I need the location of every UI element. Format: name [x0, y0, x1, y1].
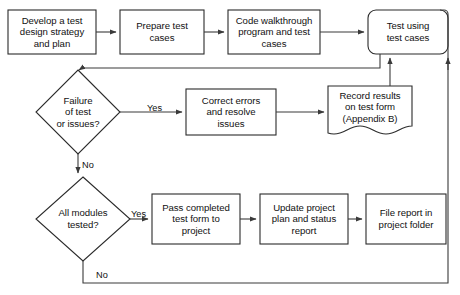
- node-record-results-document[interactable]: [328, 86, 412, 134]
- node-prepare-test-cases[interactable]: [120, 10, 204, 54]
- edge-test-using-to-failure-decision: [79, 54, 380, 70]
- node-pass-completed-test-form[interactable]: [152, 194, 240, 244]
- node-develop-test-design[interactable]: [8, 10, 96, 54]
- node-test-using-test-cases[interactable]: [368, 10, 448, 54]
- node-update-project-plan[interactable]: [260, 194, 348, 244]
- node-file-report[interactable]: [366, 194, 446, 244]
- node-all-modules-tested-decision[interactable]: [36, 177, 130, 261]
- flowchart-canvas: Develop a test design strategy and plan …: [0, 0, 460, 295]
- node-failure-of-test-decision[interactable]: [36, 70, 120, 154]
- node-correct-errors[interactable]: [186, 89, 276, 135]
- flowchart-svg: [0, 0, 460, 295]
- node-code-walkthrough[interactable]: [228, 10, 320, 54]
